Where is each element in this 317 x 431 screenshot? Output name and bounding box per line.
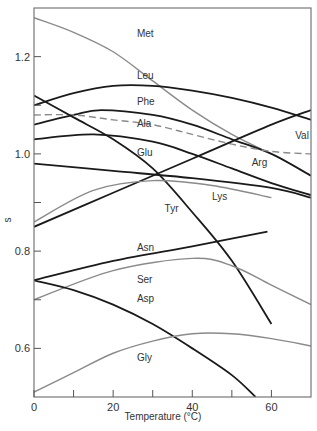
curve-phe xyxy=(34,110,311,176)
curve-label-glu: Glu xyxy=(137,147,153,158)
curve-label-ser: Ser xyxy=(137,274,153,285)
curve-label-leu: Leu xyxy=(137,70,154,81)
curve-arg xyxy=(34,134,311,195)
y-tick-label: 1.2 xyxy=(15,51,30,63)
y-tick-label: 0.6 xyxy=(15,342,30,354)
curve-label-met: Met xyxy=(137,28,154,39)
x-axis: 0204060 xyxy=(31,390,278,413)
curve-label-ala: Ala xyxy=(137,118,152,129)
curve-label-phe: Phe xyxy=(137,96,155,107)
x-tick-label: 0 xyxy=(31,401,37,413)
x-axis-title: Temperature (°C) xyxy=(125,411,202,422)
curve-label-tyr: Tyr xyxy=(165,203,180,214)
x-tick-label: 20 xyxy=(107,401,119,413)
y-tick-label: 0.8 xyxy=(15,245,30,257)
curve-lys xyxy=(34,180,271,221)
curve-ser xyxy=(34,258,311,304)
line-chart: 0204060 0.60.81.01.2 MetLeuPheAlaArgTyrG… xyxy=(0,0,317,431)
curve-label-gly: Gly xyxy=(137,352,152,363)
curve-label-arg: Arg xyxy=(252,157,268,168)
curve-labels: MetLeuPheAlaArgTyrGluValLysAsnSerAspGly xyxy=(137,28,309,362)
curve-label-lys: Lys xyxy=(212,191,227,202)
curve-label-val: Val xyxy=(295,130,309,141)
x-tick-label: 60 xyxy=(265,401,277,413)
y-tick-label: 1.0 xyxy=(15,148,30,160)
y-axis-title: s xyxy=(2,218,13,223)
curve-label-asn: Asn xyxy=(137,242,154,253)
curve-label-asp: Asp xyxy=(137,293,155,304)
curve-gly xyxy=(34,333,311,392)
